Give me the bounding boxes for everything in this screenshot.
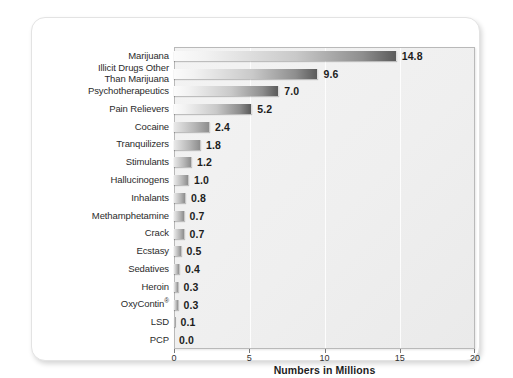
category-label: Inhalants bbox=[0, 193, 169, 204]
bar-row: Heroin0.3 bbox=[32, 278, 513, 296]
bar bbox=[174, 246, 182, 256]
bar bbox=[174, 51, 397, 61]
category-label: Psychotherapeutics bbox=[0, 86, 169, 97]
bar-row: OxyContin®0.3 bbox=[32, 296, 513, 314]
bar bbox=[174, 282, 179, 292]
bar bbox=[174, 86, 279, 96]
category-label: Hallucinogens bbox=[0, 175, 169, 186]
bar bbox=[174, 175, 189, 185]
x-tick-label: 15 bbox=[395, 353, 405, 363]
bar-value-label: 5.2 bbox=[257, 103, 272, 115]
x-axis: 05101520 bbox=[174, 349, 475, 363]
bar-row: Ecstasy0.5 bbox=[32, 242, 513, 260]
bar-value-label: 1.2 bbox=[197, 156, 212, 168]
bar-value-label: 0.5 bbox=[187, 245, 202, 257]
category-label: PCP bbox=[0, 335, 169, 346]
bar bbox=[174, 104, 252, 114]
category-label: Cocaine bbox=[0, 122, 169, 133]
bar-row: PCP0.0 bbox=[32, 331, 513, 349]
bar bbox=[174, 229, 185, 239]
bar-row: Stimulants1.2 bbox=[32, 154, 513, 172]
bar bbox=[174, 140, 201, 150]
category-label: Ecstasy bbox=[0, 246, 169, 257]
bar bbox=[174, 317, 176, 327]
bar-row: Hallucinogens1.0 bbox=[32, 171, 513, 189]
bar bbox=[174, 122, 210, 132]
category-label: Stimulants bbox=[0, 157, 169, 168]
bar-row: Inhalants0.8 bbox=[32, 189, 513, 207]
x-axis-title: Numbers in Millions bbox=[174, 364, 475, 376]
chart-screenshot: Marijuana14.8Illicit Drugs Other Than Ma… bbox=[0, 0, 513, 378]
bar-value-label: 0.1 bbox=[181, 316, 196, 328]
bar-row: Tranquilizers1.8 bbox=[32, 136, 513, 154]
bar-row: Cocaine2.4 bbox=[32, 118, 513, 136]
x-tick-label: 0 bbox=[171, 353, 176, 363]
bar-value-label: 0.4 bbox=[185, 263, 200, 275]
category-label: Crack bbox=[0, 228, 169, 239]
bar-value-label: 9.6 bbox=[323, 68, 338, 80]
bar-row: Sedatives0.4 bbox=[32, 260, 513, 278]
category-label: Sedatives bbox=[0, 264, 169, 275]
category-label: OxyContin® bbox=[0, 299, 169, 310]
category-label: Marijuana bbox=[0, 51, 169, 62]
bar-value-label: 1.0 bbox=[194, 174, 209, 186]
bar-value-label: 0.7 bbox=[190, 228, 205, 240]
bar-row: Crack0.7 bbox=[32, 225, 513, 243]
bar-rows: Marijuana14.8Illicit Drugs Other Than Ma… bbox=[32, 47, 513, 349]
bar-value-label: 0.3 bbox=[184, 281, 199, 293]
bar bbox=[174, 211, 185, 221]
bar-value-label: 0.3 bbox=[184, 299, 199, 311]
bar bbox=[174, 69, 318, 79]
category-label: Tranquilizers bbox=[0, 139, 169, 150]
category-label: LSD bbox=[0, 317, 169, 328]
bar-row: Psychotherapeutics7.0 bbox=[32, 83, 513, 101]
bar-value-label: 2.4 bbox=[215, 121, 230, 133]
registered-trademark-icon: ® bbox=[164, 297, 169, 304]
bar bbox=[174, 193, 186, 203]
bar-row: Pain Relievers5.2 bbox=[32, 100, 513, 118]
bar-value-label: 0.0 bbox=[179, 334, 194, 346]
bar bbox=[174, 300, 179, 310]
bar-row: Methamphetamine0.7 bbox=[32, 207, 513, 225]
bar-value-label: 1.8 bbox=[206, 139, 221, 151]
bar-row: LSD0.1 bbox=[32, 313, 513, 331]
x-tick-label: 20 bbox=[470, 353, 480, 363]
bar-value-label: 0.7 bbox=[190, 210, 205, 222]
category-label: Heroin bbox=[0, 282, 169, 293]
bar-value-label: 0.8 bbox=[191, 192, 206, 204]
bar-row: Illicit Drugs Other Than Marijuana9.6 bbox=[32, 65, 513, 83]
x-tick-label: 5 bbox=[247, 353, 252, 363]
category-label: Pain Relievers bbox=[0, 104, 169, 115]
bar bbox=[174, 264, 180, 274]
x-tick-label: 10 bbox=[319, 353, 329, 363]
bar-value-label: 14.8 bbox=[402, 50, 423, 62]
chart-card: Marijuana14.8Illicit Drugs Other Than Ma… bbox=[31, 17, 480, 361]
category-label: Illicit Drugs Other Than Marijuana bbox=[0, 63, 169, 84]
category-label: Methamphetamine bbox=[0, 211, 169, 222]
bar-value-label: 7.0 bbox=[284, 85, 299, 97]
bar bbox=[174, 157, 192, 167]
